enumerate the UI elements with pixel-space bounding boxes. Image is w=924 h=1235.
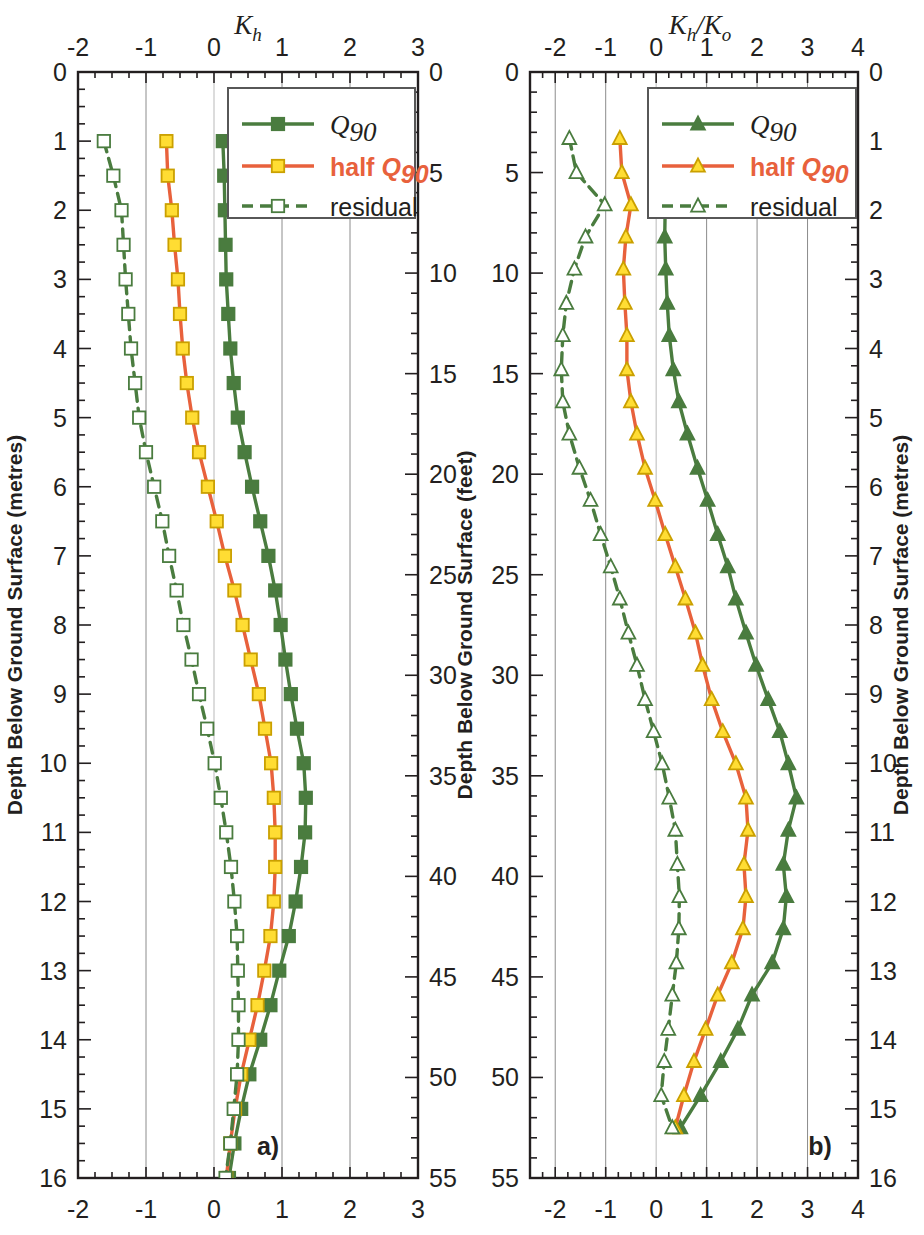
marker-triangle (559, 296, 573, 309)
ytick-label-right: 6 (869, 473, 883, 501)
xtick-label-top: 3 (411, 33, 425, 61)
ytick-label-left: 11 (41, 818, 67, 846)
marker-triangle (716, 724, 730, 737)
marker-triangle (659, 262, 673, 275)
ytick-label-right: 12 (869, 888, 897, 916)
marker-square (279, 653, 291, 665)
marker-square (220, 273, 232, 285)
marker-square (232, 411, 244, 423)
marker-triangle (630, 426, 644, 439)
panel-letter: a) (257, 1132, 279, 1160)
marker-square (129, 377, 141, 389)
figure-container: -2-2-1-100112233012345678910111213141516… (0, 0, 924, 1235)
marker-triangle (739, 790, 753, 803)
marker-square (202, 481, 214, 493)
marker-triangle (622, 626, 636, 639)
marker-square (295, 861, 307, 873)
marker-square (115, 204, 127, 216)
marker-triangle (613, 591, 627, 604)
marker-triangle (773, 724, 787, 737)
marker-triangle (668, 823, 682, 836)
marker-square (220, 826, 232, 838)
xtick-label-top: -2 (544, 33, 566, 61)
marker-triangle (662, 328, 676, 341)
marker-square (163, 550, 175, 562)
marker-square (201, 722, 213, 734)
marker-triangle (556, 328, 570, 341)
marker-triangle (624, 197, 638, 210)
marker-square (269, 584, 281, 596)
ytick-label-left: 30 (491, 661, 519, 689)
ytick-label-right: 9 (869, 680, 883, 708)
marker-square (285, 688, 297, 700)
marker-square (283, 930, 295, 942)
xtick-label-bottom: 4 (851, 1195, 865, 1223)
marker-triangle (661, 1022, 675, 1035)
ytick-label-right: 1 (869, 127, 883, 155)
marker-square (148, 481, 160, 493)
xtick-label-bottom: -2 (67, 1195, 89, 1223)
marker-triangle (624, 394, 638, 407)
axis-titles: Depth Below Ground Surface (metres)Depth… (3, 435, 912, 815)
ytick-label-right: 2 (869, 196, 883, 224)
marker-square (140, 446, 152, 458)
marker-triangle (660, 296, 674, 309)
ytick-label-right: 40 (429, 862, 457, 890)
marker-square (291, 722, 303, 734)
ytick-label-right: 14 (869, 1026, 897, 1054)
xtick-label-bottom: 3 (801, 1195, 815, 1223)
marker-square (259, 722, 271, 734)
marker-triangle (584, 493, 598, 506)
ytick-label-right: 5 (869, 404, 883, 432)
xtick-label-bottom: 2 (750, 1195, 764, 1223)
marker-triangle (701, 493, 715, 506)
marker-triangle (554, 362, 568, 375)
marker-triangle (779, 889, 793, 902)
marker-triangle (699, 1022, 713, 1035)
ytick-label-left: 4 (53, 335, 67, 363)
marker-triangle (556, 394, 570, 407)
data-layer (98, 135, 312, 1184)
legend-marker (272, 118, 284, 130)
marker-square (133, 411, 145, 423)
xtick-label-top: 2 (750, 33, 764, 61)
xtick-label-bottom: 1 (275, 1195, 289, 1223)
marker-triangle (669, 955, 683, 968)
marker-square (117, 239, 129, 251)
marker-triangle (711, 527, 725, 540)
marker-square (228, 895, 240, 907)
ytick-label-left: 8 (53, 611, 67, 639)
marker-square (193, 688, 205, 700)
ytick-label-left: 12 (39, 888, 67, 916)
marker-triangle (616, 262, 630, 275)
marker-square (122, 308, 134, 320)
marker-triangle (657, 1054, 671, 1067)
marker-triangle (741, 823, 755, 836)
marker-triangle (781, 756, 795, 769)
legend-label: residual (330, 193, 418, 221)
marker-square (219, 550, 231, 562)
marker-square (264, 999, 276, 1011)
marker-triangle (672, 921, 686, 934)
ytick-label-right: 45 (429, 963, 457, 991)
marker-triangle (570, 165, 584, 178)
marker-triangle (568, 262, 582, 275)
y-axis-title-feet: Depth Below Ground Surface (feet) (453, 451, 476, 800)
xtick-label-top: 4 (851, 33, 865, 61)
marker-square (224, 1137, 236, 1149)
marker-square (98, 135, 110, 147)
marker-square (177, 619, 189, 631)
legend: Q90half Q90residual (648, 88, 856, 221)
marker-square (262, 550, 274, 562)
series-residual (98, 135, 245, 1184)
ytick-label-right: 16 (869, 1164, 897, 1192)
marker-triangle (691, 461, 705, 474)
ytick-label-right: 5 (429, 159, 443, 187)
marker-square (162, 169, 174, 181)
ytick-label-right: 3 (869, 265, 883, 293)
marker-square (224, 342, 236, 354)
xtick-label-bottom: 1 (700, 1195, 714, 1223)
marker-triangle (781, 823, 795, 836)
panel-letter: b) (808, 1132, 832, 1160)
marker-square (174, 308, 186, 320)
